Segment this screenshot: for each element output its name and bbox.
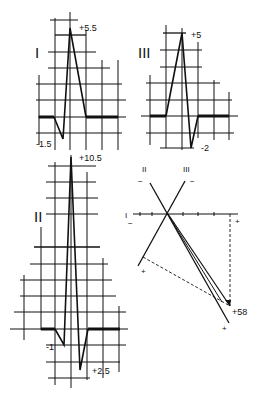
axis-lead-II-label: II [142,165,146,174]
lead-I-peak-value: +5.5 [79,23,97,33]
axis-construction [133,181,238,323]
resultant-vector [168,214,230,306]
dashed-projection-III [143,257,230,306]
axis-lead-I-plus: + [235,217,240,226]
lead-III-axis [138,181,185,266]
lead-II-panel [10,155,128,388]
ecg-axis-diagram: I +5.5 -1.5 III +5 -2 [0,0,262,400]
lead-III-panel [141,25,238,150]
lead-II-s-value: +2.5 [92,366,110,376]
lead-I-trough-value: -1.5 [36,139,52,149]
lead-II-peak-value: +10.5 [79,153,102,163]
lead-II-label: II [34,208,42,225]
axis-lead-III-label: III [183,165,190,174]
lead-III-peak-value: +5 [191,30,201,40]
axis-lead-II-minus: − [138,177,143,186]
axis-lead-I-label: I [125,211,127,220]
axis-lead-III-minus: − [190,177,195,186]
axis-lead-III-plus: + [141,267,146,276]
lead-III-trough-value: -2 [201,143,209,153]
axis-lead-II-plus: + [222,324,227,333]
lead-III-label: III [138,44,151,61]
lead-I-label: I [35,44,39,61]
lead-II-axis [150,183,229,323]
lead-II-q-value: -1 [46,342,54,352]
axis-result-label: +58 [232,307,247,317]
axis-lead-I-minus: − [128,219,133,228]
